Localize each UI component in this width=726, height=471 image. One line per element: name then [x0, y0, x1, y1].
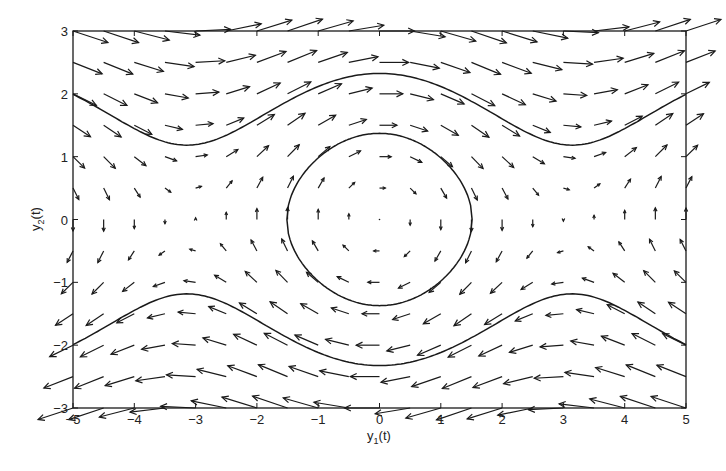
quiver-arrow — [356, 342, 379, 348]
quiver-arrow — [196, 58, 225, 64]
quiver-arrow — [349, 151, 361, 157]
quiver-arrow — [669, 302, 686, 313]
quiver-arrow — [283, 397, 318, 408]
quiver-arrow — [528, 406, 563, 412]
quiver-arrow — [56, 314, 73, 325]
quiver-arrow — [349, 23, 384, 31]
quiver-arrow — [471, 31, 506, 44]
quiver-arrow — [504, 377, 533, 386]
x-tick-label: −4 — [127, 412, 142, 427]
quiver-arrow — [686, 145, 698, 156]
quiver-arrow — [471, 125, 488, 137]
quiver-arrow — [73, 31, 108, 43]
x-axis-label: y1(t) — [367, 428, 391, 446]
quiver-arrow — [423, 314, 440, 324]
quiver-arrow — [644, 271, 656, 283]
quiver-arrow — [412, 377, 441, 388]
quiver-arrow — [362, 311, 379, 316]
quiver-arrow — [467, 408, 502, 420]
quiver-arrow — [471, 188, 477, 200]
quiver-arrow — [473, 377, 502, 389]
quiver-arrow — [533, 157, 545, 164]
quiver-arrow — [563, 61, 592, 67]
quiver-arrow — [331, 307, 348, 314]
quiver-arrow — [565, 370, 594, 376]
quiver-arrow — [165, 62, 194, 68]
quiver-arrow — [142, 345, 165, 351]
quiver-arrow — [288, 50, 317, 62]
quiver-arrow — [441, 188, 447, 198]
quiver-arrow — [134, 157, 146, 166]
quiver-arrow — [226, 150, 238, 157]
quiver-arrow — [368, 281, 380, 284]
quiver-arrow — [562, 218, 565, 221]
quiver-arrow — [594, 56, 623, 62]
y-tick-label: 2 — [61, 87, 68, 102]
x-tick-label: 3 — [560, 412, 567, 427]
quiver-arrow — [410, 94, 433, 101]
quiver-arrow — [596, 367, 625, 377]
quiver-arrow — [161, 404, 196, 410]
quiver-arrow — [558, 251, 564, 254]
x-tick-label: −3 — [188, 412, 203, 427]
quiver-arrow — [165, 125, 182, 130]
quiver-arrow — [533, 188, 539, 195]
quiver-arrow — [410, 157, 422, 163]
quiver-arrow — [686, 19, 721, 31]
x-tick-label: 4 — [621, 412, 628, 427]
quiver-arrow — [257, 83, 280, 94]
quiver-arrow — [655, 114, 672, 126]
quiver-arrow — [399, 282, 411, 288]
quiver-arrow — [655, 82, 678, 94]
quiver-arrow — [429, 282, 441, 292]
quiver-arrow — [257, 51, 286, 63]
quiver-arrow — [593, 215, 596, 219]
quiver-arrow — [410, 62, 439, 69]
quiver-arrow — [73, 157, 85, 168]
quiver-arrow — [655, 145, 667, 157]
quiver-arrow — [226, 54, 255, 63]
quiver-arrow — [625, 179, 631, 188]
quiver-arrow — [502, 31, 537, 43]
quiver-arrow — [349, 119, 366, 126]
quiver-arrow — [318, 147, 330, 157]
quiver-arrow — [533, 31, 568, 40]
quiver-arrow — [594, 152, 606, 157]
quiver-arrow — [490, 282, 502, 293]
quiver-arrow — [563, 92, 586, 98]
quiver-arrow — [655, 18, 690, 31]
quiver-arrow — [563, 156, 575, 159]
quiver-arrow — [196, 154, 208, 157]
quiver-arrow — [502, 157, 514, 168]
quiver-arrow — [288, 145, 300, 157]
vector-field-arrows — [38, 18, 721, 421]
quiver-arrow — [496, 251, 502, 262]
quiver-arrow — [289, 366, 318, 377]
quiver-arrow — [178, 310, 195, 315]
quiver-arrow — [194, 218, 197, 221]
quiver-arrow — [623, 210, 626, 219]
quiver-arrow — [86, 314, 103, 326]
quiver-arrow — [466, 251, 472, 263]
quiver-arrow — [393, 314, 410, 321]
quiver-arrow — [253, 395, 288, 408]
quiver-arrow — [534, 375, 563, 381]
quiver-arrow — [191, 399, 226, 408]
quiver-arrow — [228, 365, 257, 377]
quiver-arrow — [441, 125, 458, 135]
quiver-arrow — [509, 345, 532, 353]
quiver-arrow — [226, 22, 261, 31]
quiver-arrow — [165, 188, 171, 192]
quiver-arrow — [215, 275, 227, 282]
quiver-arrow — [374, 250, 380, 253]
quiver-arrow — [105, 377, 134, 387]
quiver-arrow — [521, 282, 533, 289]
quiver-arrow — [410, 125, 427, 132]
quiver-arrow — [314, 400, 349, 408]
quiver-arrow — [104, 62, 133, 74]
quiver-arrow — [441, 157, 453, 167]
quiver-arrow — [479, 345, 502, 356]
quiver-arrow — [226, 86, 249, 94]
x-tick-label: 0 — [376, 412, 383, 427]
quiver-arrow — [282, 239, 288, 251]
